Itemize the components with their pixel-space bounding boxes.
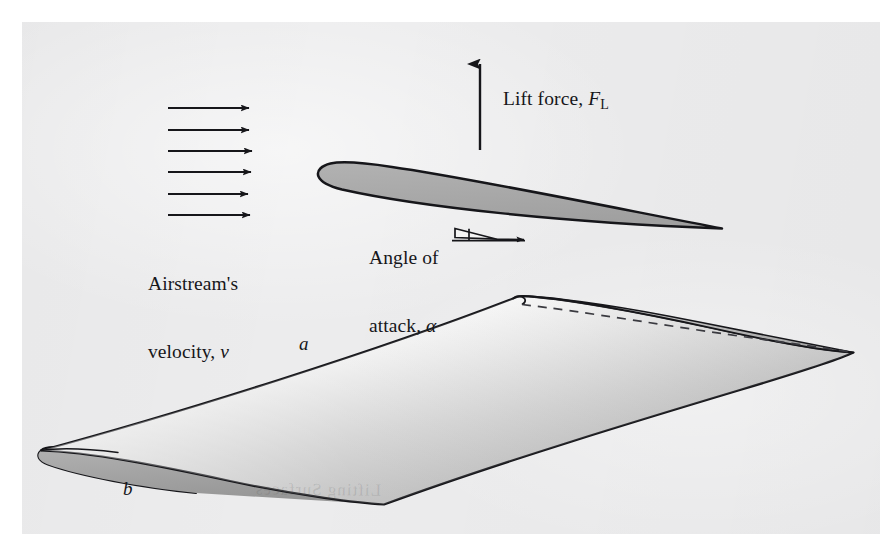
angle-of-attack-indicator <box>452 229 525 241</box>
airstream-arrow-group <box>168 108 252 215</box>
lift-force-label-prefix: Lift force, <box>503 88 588 109</box>
diagram-artwork <box>0 0 895 553</box>
airstream-velocity-label: Airstream's velocity, v <box>148 228 238 409</box>
page-bleedthrough-text: Lifting Surfaces <box>255 479 381 500</box>
airstream-label-line2-prefix: velocity, <box>148 341 220 362</box>
lift-force-subscript: L <box>600 96 609 112</box>
airstream-label-line2: velocity, v <box>148 341 238 364</box>
velocity-symbol: v <box>220 341 229 362</box>
lift-force-label: Lift force, FL <box>503 88 609 112</box>
aoa-label-line2: attack, α <box>369 315 439 338</box>
wing-chord-label: b <box>123 478 133 500</box>
aoa-label-line2-prefix: attack, <box>369 315 426 336</box>
angle-of-attack-label: Angle of attack, α <box>369 202 439 383</box>
wing-span-label: a <box>299 333 309 355</box>
figure-root: Airstream's velocity, v Lift force, FL A… <box>0 0 895 553</box>
aoa-wedge <box>455 229 497 240</box>
lift-force-symbol: F <box>588 88 600 109</box>
aoa-label-line1: Angle of <box>369 247 439 270</box>
alpha-symbol: α <box>426 315 436 336</box>
airstream-label-line1: Airstream's <box>148 273 238 296</box>
